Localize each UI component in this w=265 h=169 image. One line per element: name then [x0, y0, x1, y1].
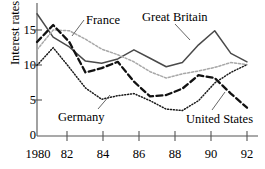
leader-line-germany	[98, 95, 110, 109]
data-series-group	[37, 14, 247, 111]
plot-area	[0, 0, 265, 169]
leader-line-france	[72, 20, 84, 36]
leader-line-united-states	[212, 92, 225, 110]
leader-line-great-britain	[175, 24, 190, 40]
interest-rates-line-chart: Interest rates (%) 15 10 5 0 1980 82 84 …	[0, 0, 265, 169]
series-line-great-britain	[37, 14, 247, 67]
